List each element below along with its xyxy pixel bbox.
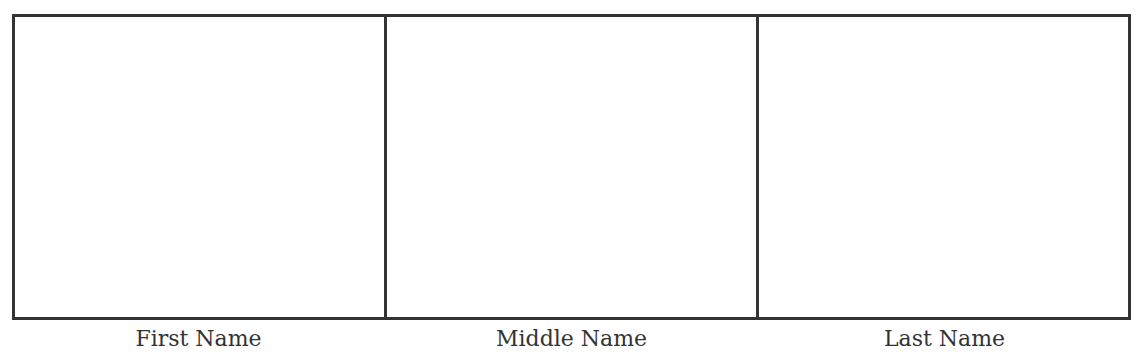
last-name-field[interactable] — [756, 17, 1128, 317]
first-name-field[interactable] — [15, 17, 384, 317]
last-name-label: Last Name — [758, 326, 1131, 352]
field-labels: First Name Middle Name Last Name — [12, 326, 1131, 352]
middle-name-field[interactable] — [384, 17, 756, 317]
first-name-label: First Name — [12, 326, 385, 352]
name-entry-box — [12, 14, 1131, 320]
middle-name-label: Middle Name — [385, 326, 758, 352]
